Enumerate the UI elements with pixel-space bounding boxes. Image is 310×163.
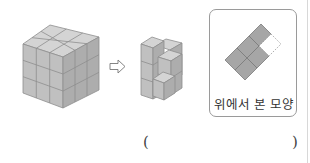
- answer-blank[interactable]: [155, 133, 285, 151]
- answer-open-paren: (: [143, 133, 149, 151]
- answer-close-paren: ): [292, 133, 298, 151]
- top-view-label: 위에서 본 모양: [212, 94, 296, 113]
- big-cube: [23, 25, 99, 108]
- small-cube-stack: [141, 37, 182, 100]
- right-margin-rule: [307, 0, 308, 163]
- hollow-right-arrow-icon: [110, 60, 125, 73]
